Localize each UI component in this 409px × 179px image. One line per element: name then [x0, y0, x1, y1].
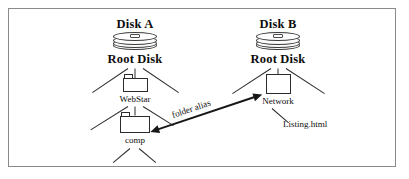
diagram-canvas: Disk A Root Disk WebStar comp — [0, 0, 409, 179]
folder-icon-webstar[interactable] — [123, 74, 148, 92]
disk-b-title: Disk B — [260, 18, 297, 31]
folder-icon-comp[interactable] — [120, 112, 150, 133]
disk-a-title: Disk A — [117, 18, 154, 31]
comp-label: comp — [125, 136, 145, 145]
disk-stack-icon — [113, 31, 157, 50]
diagram-frame — [8, 8, 396, 167]
listing-html-label: Listing.html — [283, 120, 327, 129]
disk-b-root-label: Root Disk — [251, 53, 306, 66]
network-label: Network — [262, 97, 294, 106]
folder-icon-network[interactable] — [266, 74, 291, 94]
disk-stack-icon — [256, 31, 300, 50]
disk-a-root-label: Root Disk — [108, 53, 163, 66]
webstar-label: WebStar — [120, 95, 151, 104]
